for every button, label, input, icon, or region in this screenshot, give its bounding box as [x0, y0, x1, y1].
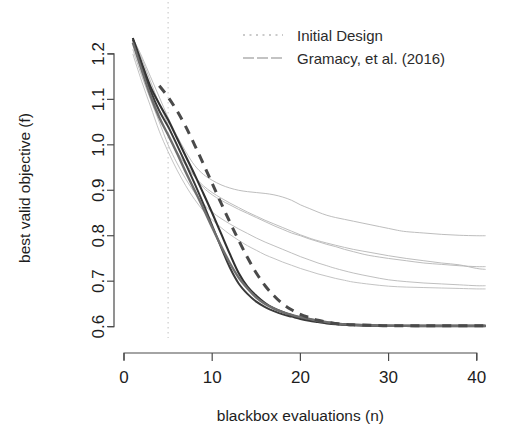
chart-figure: 0.60.70.80.91.01.11.2010203040blackbox e…	[0, 0, 517, 444]
x-tick-label: 40	[467, 368, 486, 387]
x-tick-label: 10	[203, 368, 222, 387]
y-tick-label: 0.6	[89, 315, 108, 339]
y-tick-label: 1.2	[89, 42, 108, 66]
y-tick-label: 1.1	[89, 88, 108, 112]
x-tick-label: 20	[291, 368, 310, 387]
x-tick-label: 30	[379, 368, 398, 387]
legend-label-0: Initial Design	[297, 27, 383, 44]
x-axis-title: blackbox evaluations (n)	[217, 407, 384, 424]
y-tick-label: 0.9	[89, 178, 108, 202]
y-tick-label: 0.7	[89, 269, 108, 293]
series-gramacy-run-1	[133, 38, 486, 236]
legend-label-1: Gramacy, et al. (2016)	[297, 50, 445, 67]
y-tick-label: 0.8	[89, 224, 108, 248]
axis-labels-group: 0.60.70.80.91.01.11.2010203040blackbox e…	[16, 42, 486, 424]
y-axis-title: best valid objective (f)	[16, 113, 33, 263]
series-proposed-run-dark-1	[133, 38, 486, 326]
y-tick-label: 1.0	[89, 133, 108, 157]
chart-canvas: 0.60.70.80.91.01.11.2010203040blackbox e…	[0, 0, 517, 444]
legend: Initial DesignGramacy, et al. (2016)	[243, 27, 445, 67]
series-clip-group	[133, 38, 486, 326]
series-group	[133, 38, 486, 326]
series-gramacy-run-4	[133, 49, 486, 285]
x-tick-label: 0	[119, 368, 128, 387]
